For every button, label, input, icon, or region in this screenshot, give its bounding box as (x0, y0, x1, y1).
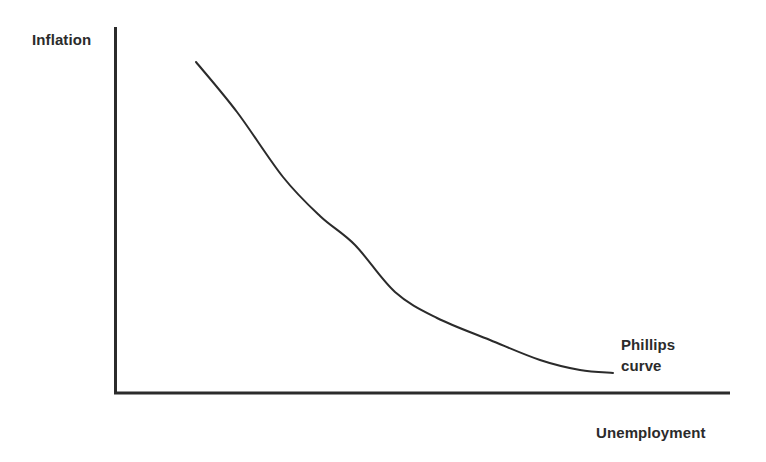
y-axis-label: Inflation (32, 29, 91, 50)
chart-canvas (0, 0, 766, 462)
phillips-curve-annotation: Phillips curve (621, 334, 675, 376)
phillips-curve-line (196, 62, 613, 373)
x-axis-label: Unemployment (596, 422, 706, 443)
curve-annotation-line-2: curve (621, 355, 675, 376)
curve-annotation-line-1: Phillips (621, 336, 675, 353)
phillips-curve-figure: Inflation Unemployment Phillips curve (0, 0, 766, 462)
